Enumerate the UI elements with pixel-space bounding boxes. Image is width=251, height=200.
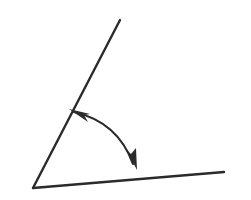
- angle-diagram-canvas: [0, 0, 251, 200]
- angle-diagram-svg: [0, 0, 251, 200]
- canvas-background: [0, 0, 251, 200]
